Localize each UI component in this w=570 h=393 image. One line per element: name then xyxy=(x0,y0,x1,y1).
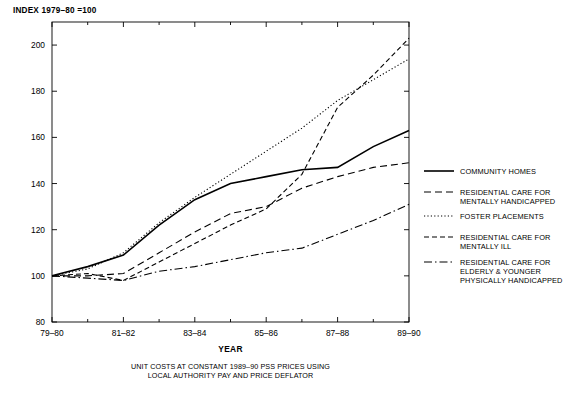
x-tick-label: 87–88 xyxy=(326,328,350,338)
legend-label-5: ELDERLY & YOUNGER xyxy=(460,267,541,276)
series-line-1 xyxy=(52,130,409,275)
y-tick-label: 160 xyxy=(31,132,45,142)
caption-line-2: LOCAL AUTHORITY PAY AND PRICE DEFLATOR xyxy=(148,371,314,380)
legend-label-4: RESIDENTIAL CARE FOR xyxy=(460,233,550,242)
y-tick-label: 100 xyxy=(31,271,45,281)
x-tick-label: 81–82 xyxy=(112,328,136,338)
series-line-4 xyxy=(52,38,409,280)
series-line-3 xyxy=(52,59,409,276)
chart-container: INDEX 1979–80 =100 801001201401601802007… xyxy=(0,0,570,393)
legend-label-2: MENTALLY HANDICAPPED xyxy=(460,197,555,206)
x-tick-label: 83–84 xyxy=(183,328,207,338)
y-tick-label: 180 xyxy=(31,86,45,96)
line-chart: 8010012014016018020079–8081–8283–8485–86… xyxy=(0,0,570,393)
series-line-2 xyxy=(52,163,409,276)
y-tick-label: 80 xyxy=(36,317,46,327)
x-tick-label: 89–90 xyxy=(397,328,421,338)
y-tick-label: 140 xyxy=(31,179,45,189)
x-tick-label: 85–86 xyxy=(255,328,279,338)
y-tick-label: 120 xyxy=(31,225,45,235)
x-tick-label: 79–80 xyxy=(40,328,64,338)
series-line-5 xyxy=(52,204,409,280)
caption-line-1: UNIT COSTS AT CONSTANT 1989–90 PSS PRICE… xyxy=(131,362,330,371)
y-tick-label: 200 xyxy=(31,40,45,50)
plot-frame xyxy=(52,22,409,322)
legend-label-5: RESIDENTIAL CARE FOR xyxy=(460,258,550,267)
legend-label-2: RESIDENTIAL CARE FOR xyxy=(460,188,550,197)
x-axis-title: YEAR xyxy=(218,344,242,354)
legend-label-3: FOSTER PLACEMENTS xyxy=(460,212,544,221)
legend-label-5: PHYSICALLY HANDICAPPED xyxy=(460,276,563,285)
legend-label-4: MENTALLY ILL xyxy=(460,242,511,251)
legend-label-1: COMMUNITY HOMES xyxy=(460,167,536,176)
